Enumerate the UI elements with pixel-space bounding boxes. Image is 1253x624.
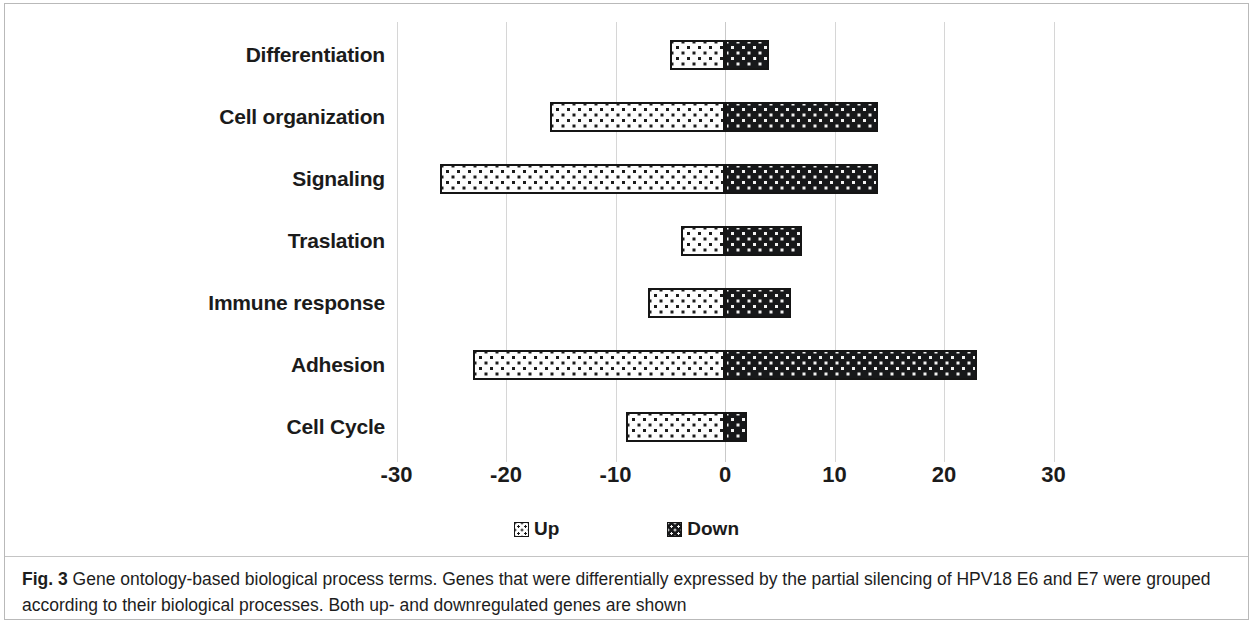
legend-label-down: Down — [687, 518, 739, 540]
legend-item-up[interactable]: Up — [514, 518, 559, 540]
bar-up[interactable] — [648, 288, 725, 318]
bar-up[interactable] — [670, 40, 725, 70]
bar-down[interactable] — [725, 350, 977, 380]
x-axis: -30-20-100102030 — [0, 462, 1253, 502]
x-tick-label: 0 — [719, 462, 731, 488]
chart-legend: Up Down — [0, 512, 1253, 546]
category-label: Signaling — [0, 148, 385, 210]
chart-row: Traslation — [0, 210, 1253, 272]
x-tick-label: -20 — [490, 462, 522, 488]
bar-down[interactable] — [725, 288, 791, 318]
bar-chart: DifferentiationCell organizationSignalin… — [0, 0, 1253, 552]
x-tick-label: 10 — [822, 462, 846, 488]
category-label: Differentiation — [0, 24, 385, 86]
plot-area: DifferentiationCell organizationSignalin… — [0, 22, 1253, 462]
x-tick-label: 20 — [932, 462, 956, 488]
chart-row: Signaling — [0, 148, 1253, 210]
bar-up[interactable] — [681, 226, 725, 256]
chart-row: Cell organization — [0, 86, 1253, 148]
figure-3-panel: DifferentiationCell organizationSignalin… — [0, 0, 1253, 624]
x-tick-label: -30 — [381, 462, 413, 488]
light-dotted-swatch-icon — [514, 522, 529, 537]
dark-dotted-swatch-icon — [667, 522, 682, 537]
bar-up[interactable] — [473, 350, 725, 380]
caption-divider — [5, 556, 1248, 557]
legend-item-down[interactable]: Down — [667, 518, 739, 540]
category-label: Immune response — [0, 272, 385, 334]
bar-down[interactable] — [725, 40, 769, 70]
bar-up[interactable] — [550, 102, 725, 132]
category-label: Adhesion — [0, 334, 385, 396]
bar-down[interactable] — [725, 164, 878, 194]
bar-down[interactable] — [725, 102, 878, 132]
figure-caption: Fig. 3 Gene ontology-based biological pr… — [22, 566, 1234, 618]
category-label: Traslation — [0, 210, 385, 272]
bar-up[interactable] — [626, 412, 725, 442]
bar-down[interactable] — [725, 412, 747, 442]
x-tick-label: -10 — [600, 462, 632, 488]
bar-up[interactable] — [440, 164, 725, 194]
chart-row: Adhesion — [0, 334, 1253, 396]
chart-row: Differentiation — [0, 24, 1253, 86]
chart-row: Cell Cycle — [0, 396, 1253, 458]
legend-label-up: Up — [534, 518, 559, 540]
figure-label: Fig. 3 — [22, 569, 68, 589]
figure-caption-text: Gene ontology-based biological process t… — [22, 569, 1210, 615]
chart-row: Immune response — [0, 272, 1253, 334]
bar-down[interactable] — [725, 226, 802, 256]
category-label: Cell Cycle — [0, 396, 385, 458]
x-tick-label: 30 — [1041, 462, 1065, 488]
category-label: Cell organization — [0, 86, 385, 148]
